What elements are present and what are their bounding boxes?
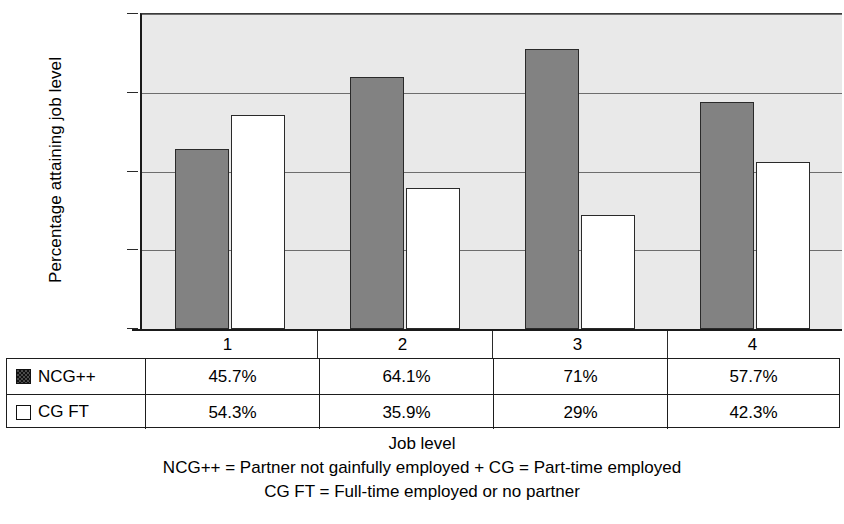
caption-line-ncg: NCG++ = Partner not gainfully employed +… (0, 456, 844, 480)
y-tick-mark (127, 13, 138, 14)
table-cell: 45.7% (146, 359, 320, 394)
data-table: NCG++ 45.7% 64.1% 71% 57.7% CG FT 54.3% … (6, 358, 840, 428)
x-axis-category-labels: 1234 (140, 331, 840, 358)
bar-chart-figure: Percentage attaining job level 020406080… (0, 0, 844, 524)
legend-swatch-ncg-icon (16, 369, 31, 384)
bar-ncg--1 (175, 149, 229, 329)
bar-ncg--4 (700, 102, 754, 329)
legend-label-cgft: CG FT (38, 402, 89, 422)
table-cell: 71% (494, 359, 668, 394)
bar-cg-ft-2 (406, 188, 460, 329)
y-tick-mark (127, 249, 138, 250)
bar-group (667, 14, 842, 329)
bar-cg-ft-3 (581, 215, 635, 329)
y-tick-mark (127, 92, 138, 93)
x-tick-label: 3 (490, 331, 665, 358)
legend-swatch-cgft-icon (16, 405, 31, 420)
legend-label-ncg: NCG++ (38, 367, 96, 387)
bar-ncg--3 (525, 49, 579, 329)
legend-cell-ncg: NCG++ (7, 359, 146, 394)
bar-group (492, 14, 667, 329)
x-axis-label: Job level (0, 432, 844, 456)
caption-block: Job level NCG++ = Partner not gainfully … (0, 432, 844, 504)
table-row: NCG++ 45.7% 64.1% 71% 57.7% (7, 359, 839, 394)
table-cell: 57.7% (668, 359, 839, 394)
y-axis-title: Percentage attaining job level (46, 10, 66, 330)
table-cell: 64.1% (320, 359, 494, 394)
bar-cg-ft-1 (231, 115, 285, 329)
bar-group (142, 14, 317, 329)
bar-group (317, 14, 492, 329)
table-cell: 35.9% (320, 395, 494, 429)
bar-cg-ft-4 (756, 162, 810, 329)
bar-ncg--2 (350, 77, 404, 329)
table-cell: 42.3% (668, 395, 839, 429)
caption-line-cgft: CG FT = Full-time employed or no partner (0, 480, 844, 504)
x-tick-label: 1 (140, 331, 315, 358)
x-tick-label: 4 (665, 331, 840, 358)
table-row: CG FT 54.3% 35.9% 29% 42.3% (7, 394, 839, 429)
table-cell: 54.3% (146, 395, 320, 429)
x-tick-label: 2 (315, 331, 490, 358)
legend-cell-cgft: CG FT (7, 395, 146, 429)
table-cell: 29% (494, 395, 668, 429)
y-tick-mark (127, 171, 138, 172)
plot-area (140, 13, 842, 329)
